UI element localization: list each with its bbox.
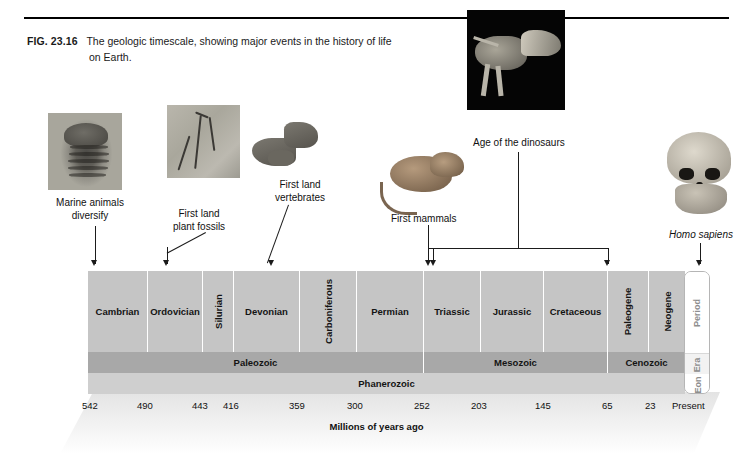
annotation-line-1: First land — [152, 207, 246, 220]
row-label-period: Period — [685, 272, 709, 353]
eon-label: Phanerozoic — [358, 378, 415, 389]
annotation-homo-sapiens: Homo sapiens — [655, 228, 747, 241]
axis-tick-145: 145 — [535, 400, 551, 411]
period-label: Ordovician — [150, 306, 200, 317]
era-cell-paleozoic[interactable]: Paleozoic — [88, 352, 424, 373]
annotation-line-1: First land — [258, 178, 342, 191]
axis-title: Millions of years ago — [0, 421, 753, 432]
period-label: Neogene — [662, 291, 673, 331]
row-label-period-text: Period — [692, 298, 702, 326]
period-cell-silurian[interactable]: Silurian — [203, 271, 234, 352]
tetrapod-fossil-photo — [250, 118, 320, 175]
annotation-line-2: plant fossils — [152, 220, 246, 233]
axis-tick-300: 300 — [347, 400, 363, 411]
annotation-marine-animals-diversify: Marine animals diversify — [48, 196, 132, 222]
period-cell-cretaceous[interactable]: Cretaceous — [544, 271, 608, 352]
human-skull-photo — [663, 128, 740, 222]
axis-tick-542: 542 — [82, 400, 98, 411]
period-cell-permian[interactable]: Permian — [357, 271, 424, 352]
geologic-timescale-chart: Cambrian Ordovician Silurian Devonian Ca… — [88, 271, 716, 394]
eon-row: Phanerozoic — [88, 373, 685, 394]
axis-tick-490: 490 — [137, 400, 153, 411]
axis-tick-416: 416 — [223, 400, 239, 411]
period-label: Silurian — [213, 294, 224, 329]
annotation-line-2: vertebrates — [258, 191, 342, 204]
annotation-line-1: Age of the dinosaurs — [473, 136, 613, 149]
axis-tick-443: 443 — [192, 400, 208, 411]
axis-tick-252: 252 — [414, 400, 430, 411]
axis-tick-359: 359 — [289, 400, 305, 411]
annotation-line-1: Homo sapiens — [655, 228, 747, 241]
axis-tick-203: 203 — [471, 400, 487, 411]
figure-root: FIG. 23.16 The geologic timescale, showi… — [0, 0, 753, 459]
row-label-era: Era — [685, 353, 709, 376]
annotation-first-land-vertebrates: First land vertebrates — [258, 178, 342, 204]
annotation-first-mammals: First mammals — [391, 212, 481, 225]
row-label-era-text: Era — [692, 357, 702, 372]
figure-caption-line-2: on Earth. — [89, 49, 447, 65]
period-label: Triassic — [434, 306, 469, 317]
axis-tick-23: 23 — [645, 400, 656, 411]
period-label: Carboniferous — [323, 279, 334, 344]
period-cell-triassic[interactable]: Triassic — [424, 271, 481, 352]
era-label: Paleozoic — [234, 357, 278, 368]
period-label: Cambrian — [96, 306, 140, 317]
era-label: Cenozoic — [625, 357, 667, 368]
period-label: Cretaceous — [550, 306, 602, 317]
period-cell-devonian[interactable]: Devonian — [234, 271, 300, 352]
period-cell-carboniferous[interactable]: Carboniferous — [300, 271, 357, 352]
era-cell-mesozoic[interactable]: Mesozoic — [424, 352, 608, 373]
annotation-line-2: diversify — [48, 209, 132, 222]
row-label-column: Period Era Eon — [684, 271, 710, 394]
period-cell-cambrian[interactable]: Cambrian — [88, 271, 148, 352]
time-axis: 542 490 443 416 359 300 252 203 145 65 2… — [0, 400, 753, 416]
trex-skeleton-photo — [467, 10, 565, 110]
figure-number: FIG. 23.16 — [27, 35, 78, 47]
annotation-age-of-the-dinosaurs: Age of the dinosaurs — [473, 136, 613, 149]
period-row: Cambrian Ordovician Silurian Devonian Ca… — [88, 271, 716, 352]
period-cell-ordovician[interactable]: Ordovician — [148, 271, 203, 352]
trilobite-photo — [48, 113, 122, 190]
period-cell-neogene[interactable]: Neogene — [649, 271, 685, 352]
period-cell-jurassic[interactable]: Jurassic — [481, 271, 544, 352]
row-label-eon: Eon — [685, 374, 709, 394]
axis-tick-65: 65 — [602, 400, 613, 411]
figure-caption: FIG. 23.16 The geologic timescale, showi… — [27, 33, 447, 65]
eon-cell-phanerozoic[interactable]: Phanerozoic — [88, 373, 685, 394]
annotation-first-land-plant-fossils: First land plant fossils — [152, 207, 246, 233]
row-label-eon-text: Eon — [692, 376, 702, 393]
period-label: Jurassic — [493, 306, 532, 317]
figure-caption-line-1: The geologic timescale, showing major ev… — [86, 35, 391, 47]
top-rule — [24, 17, 729, 19]
era-cell-cenozoic[interactable]: Cenozoic — [608, 352, 685, 373]
annotation-line-1: Marine animals — [48, 196, 132, 209]
period-label: Devonian — [245, 306, 288, 317]
period-label: Paleogene — [623, 288, 634, 336]
period-label: Permian — [371, 306, 409, 317]
plant-fossil-photo — [167, 105, 240, 178]
period-cell-paleogene[interactable]: Paleogene — [608, 271, 649, 352]
era-label: Mesozoic — [494, 357, 537, 368]
annotation-line-1: First mammals — [391, 212, 481, 225]
era-row: Paleozoic Mesozoic Cenozoic — [88, 352, 685, 373]
axis-tick-present: Present — [672, 400, 705, 411]
